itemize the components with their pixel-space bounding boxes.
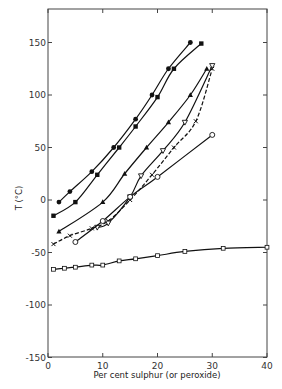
open-circle-marker — [155, 174, 160, 179]
series-filled-triangle — [56, 66, 209, 234]
filled-circle-marker — [57, 200, 62, 205]
y-tick-label: -50 — [31, 248, 46, 258]
filled-circle-marker — [68, 189, 73, 194]
y-tick-label: 150 — [29, 38, 46, 48]
open-square-marker — [73, 265, 77, 269]
open-circle-marker — [128, 194, 133, 199]
open-square-marker — [90, 263, 94, 267]
filled-circle-marker — [166, 66, 171, 71]
filled-square-marker — [199, 41, 203, 45]
open-circle-marker — [100, 219, 105, 224]
series-line — [53, 247, 267, 269]
filled-triangle-marker — [56, 229, 61, 234]
cross-marker — [150, 173, 154, 177]
filled-square-marker — [73, 200, 77, 204]
filled-square-marker — [117, 145, 121, 149]
open-square-marker — [101, 263, 105, 267]
open-square-marker — [183, 250, 187, 254]
axis-ticks: 010203040150100500-50-100-150 — [26, 9, 273, 371]
open-square-marker — [265, 245, 269, 249]
cross-marker — [172, 146, 176, 150]
open-square-marker — [63, 266, 67, 270]
open-square-marker — [52, 267, 56, 271]
series-open-square — [52, 245, 269, 271]
filled-circle-marker — [150, 93, 155, 98]
y-tick-label: 0 — [40, 195, 46, 205]
y-tick-label: -100 — [26, 300, 47, 310]
filled-circle-marker — [111, 145, 116, 150]
plot-border — [48, 9, 267, 357]
cross-marker — [51, 242, 55, 246]
chart: 010203040150100500-50-100-150 Per cent s… — [0, 0, 282, 389]
open-circle-marker — [73, 240, 78, 245]
y-axis-title: T (°C) — [14, 186, 24, 212]
x-axis-title: Per cent sulphur (or peroxide) — [93, 370, 220, 380]
open-square-marker — [117, 259, 121, 263]
filled-triangle-marker — [204, 66, 209, 71]
filled-square-marker — [95, 173, 99, 177]
filled-square-marker — [133, 124, 137, 128]
open-inverted-triangle-marker — [210, 64, 215, 69]
data-series — [51, 40, 269, 271]
open-circle-marker — [210, 132, 215, 137]
filled-square-marker — [51, 214, 55, 218]
filled-square-marker — [155, 95, 159, 99]
filled-circle-marker — [188, 40, 193, 45]
y-tick-label: 50 — [35, 143, 47, 153]
x-tick-label: 40 — [261, 361, 273, 371]
series-open-circle — [73, 132, 215, 244]
filled-square-marker — [172, 67, 176, 71]
open-square-marker — [134, 257, 138, 261]
open-square-marker — [221, 246, 225, 250]
plot-frame — [48, 9, 267, 357]
series-line — [59, 43, 190, 203]
filled-circle-marker — [89, 169, 94, 174]
x-tick-label: 0 — [45, 361, 51, 371]
series-filled-circle — [57, 40, 193, 204]
y-tick-label: 100 — [29, 90, 46, 100]
filled-circle-marker — [133, 117, 138, 122]
y-tick-label: -150 — [26, 353, 47, 363]
open-square-marker — [156, 254, 160, 258]
series-line — [59, 69, 207, 232]
series-line — [53, 69, 212, 244]
